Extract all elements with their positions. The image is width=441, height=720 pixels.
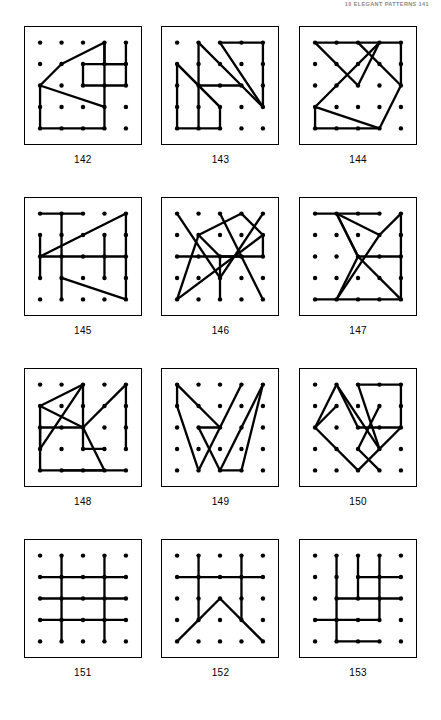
lattice-dot — [59, 553, 63, 557]
lattice-dot — [59, 276, 63, 280]
lattice-dot — [124, 639, 128, 643]
dot-grid-figure — [300, 198, 416, 315]
lattice-dot — [313, 553, 317, 557]
lattice-dot — [261, 382, 265, 386]
lattice-dot — [59, 62, 63, 66]
lattice-dot — [59, 425, 63, 429]
figure-segment — [380, 86, 401, 129]
lattice-dot — [313, 83, 317, 87]
lattice-dot — [313, 126, 317, 130]
lattice-dot — [261, 83, 265, 87]
lattice-dot — [261, 276, 265, 280]
lattice-dot — [124, 233, 128, 237]
lattice-dot — [356, 126, 360, 130]
lattice-dot — [59, 233, 63, 237]
lattice-dot — [240, 404, 244, 408]
lattice-dot — [377, 211, 381, 215]
lattice-dot — [102, 447, 106, 451]
lattice-dot — [240, 425, 244, 429]
lattice-dot — [313, 40, 317, 44]
lattice-dot — [334, 575, 338, 579]
lattice-dot — [240, 447, 244, 451]
lattice-dot — [81, 553, 85, 557]
lattice-dot — [313, 425, 317, 429]
lattice-dot — [399, 276, 403, 280]
running-head: 10 ELEGANT PATTERNS 141 — [0, 0, 441, 10]
lattice-dot — [102, 105, 106, 109]
figure-cell: 148 — [21, 368, 145, 531]
lattice-dot — [218, 276, 222, 280]
lattice-dot — [38, 105, 42, 109]
dot-grid-figure — [162, 369, 278, 486]
lattice-dot — [313, 639, 317, 643]
figure-caption: 148 — [74, 496, 92, 507]
lattice-dot — [102, 618, 106, 622]
lattice-dot — [218, 447, 222, 451]
figure-caption: 147 — [349, 325, 367, 336]
lattice-dot — [124, 596, 128, 600]
lattice-dot — [356, 553, 360, 557]
dot-grid-figure — [25, 369, 141, 486]
lattice-dot — [240, 382, 244, 386]
lattice-dot — [218, 62, 222, 66]
lattice-dot — [59, 211, 63, 215]
lattice-dot — [102, 575, 106, 579]
lattice-dot — [218, 596, 222, 600]
lattice-dot — [38, 639, 42, 643]
lattice-dot — [218, 425, 222, 429]
lattice-dot — [356, 404, 360, 408]
figure-segment — [220, 43, 263, 107]
figure-caption: 142 — [74, 154, 92, 165]
lattice-dot — [124, 211, 128, 215]
lattice-dot — [261, 425, 265, 429]
lattice-dot — [377, 297, 381, 301]
lattice-dot — [175, 425, 179, 429]
lattice-dot — [197, 126, 201, 130]
lattice-dot — [197, 40, 201, 44]
dot-grid-figure — [162, 198, 278, 315]
lattice-dot — [218, 468, 222, 472]
lattice-dot — [38, 211, 42, 215]
lattice-dot — [102, 553, 106, 557]
lattice-dot — [81, 211, 85, 215]
figure-caption: 146 — [212, 325, 230, 336]
lattice-dot — [59, 382, 63, 386]
lattice-dot — [81, 40, 85, 44]
figure-frame — [24, 26, 142, 145]
lattice-dot — [197, 105, 201, 109]
figure-segment — [358, 43, 379, 86]
lattice-dot — [218, 618, 222, 622]
lattice-dot — [313, 297, 317, 301]
lattice-dot — [175, 254, 179, 258]
lattice-dot — [59, 468, 63, 472]
lattice-dot — [399, 553, 403, 557]
lattice-dot — [240, 618, 244, 622]
figure-grid: 142143144145146147148149150151152153 — [21, 26, 420, 702]
figure-segment — [220, 214, 263, 278]
lattice-dot — [313, 105, 317, 109]
figure-caption: 153 — [349, 667, 367, 678]
lattice-dot — [38, 382, 42, 386]
lattice-dot — [81, 382, 85, 386]
figure-frame — [24, 539, 142, 658]
dot-grid-figure — [25, 27, 141, 144]
lattice-dot — [261, 404, 265, 408]
lattice-dot — [240, 83, 244, 87]
lattice-dot — [240, 126, 244, 130]
lattice-dot — [313, 447, 317, 451]
lattice-dot — [377, 126, 381, 130]
lattice-dot — [81, 233, 85, 237]
lattice-dot — [197, 83, 201, 87]
lattice-dot — [399, 254, 403, 258]
lattice-dot — [218, 382, 222, 386]
lattice-dot — [175, 83, 179, 87]
lattice-dot — [102, 233, 106, 237]
lattice-dot — [377, 404, 381, 408]
lattice-dot — [240, 211, 244, 215]
lattice-dot — [356, 382, 360, 386]
figure-segment — [315, 406, 336, 427]
lattice-dot — [356, 425, 360, 429]
lattice-dot — [313, 62, 317, 66]
lattice-dot — [218, 297, 222, 301]
lattice-dot — [59, 575, 63, 579]
